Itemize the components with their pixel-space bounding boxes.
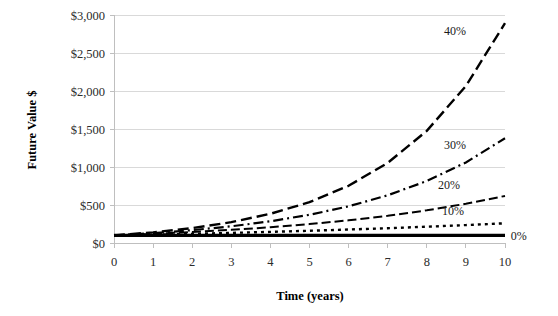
x-tick-label: 10 [499, 255, 512, 269]
series-label-0pct: 0% [511, 229, 527, 243]
y-tick-label: $0 [93, 237, 106, 251]
x-tick-label: 1 [150, 255, 156, 269]
x-tick-label: 0 [111, 255, 117, 269]
x-tick-label: 9 [463, 255, 469, 269]
future-value-line-chart: $0$500$1,000$1,500$2,000$2,500$3,000 012… [0, 0, 558, 316]
x-tick-label: 7 [385, 255, 391, 269]
x-tick-label: 2 [189, 255, 195, 269]
x-tick-label: 4 [267, 255, 274, 269]
y-tick-label: $2,000 [71, 85, 105, 99]
series-label-10pct: 10% [442, 204, 464, 218]
x-tick-label: 8 [424, 255, 430, 269]
series-label-30pct: 30% [444, 138, 466, 152]
y-tick-label: $1,500 [71, 123, 105, 137]
x-tick-label: 3 [228, 255, 234, 269]
series-inline-labels: 40%30%20%10%0% [438, 24, 527, 243]
y-tick-label: $2,500 [71, 47, 105, 61]
y-tick-label: $1,000 [71, 161, 105, 175]
chart-container: $0$500$1,000$1,500$2,000$2,500$3,000 012… [0, 0, 558, 316]
y-axis-title: Future Value $ [25, 91, 39, 170]
x-tick-label: 6 [345, 255, 351, 269]
x-axis-title: Time (years) [276, 289, 343, 303]
x-axis-tick-labels: 012345678910 [111, 255, 511, 269]
y-axis-tick-labels: $0$500$1,000$1,500$2,000$2,500$3,000 [71, 9, 105, 251]
series-label-40pct: 40% [444, 24, 466, 38]
series-label-20pct: 20% [438, 178, 460, 192]
x-tick-label: 5 [306, 255, 312, 269]
y-tick-label: $500 [80, 199, 105, 213]
y-tick-label: $3,000 [71, 9, 105, 23]
